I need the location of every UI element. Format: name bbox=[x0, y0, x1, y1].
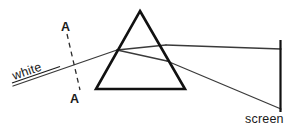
wavefront-label-top: A bbox=[61, 20, 70, 34]
wavefront-label-bottom: A bbox=[70, 92, 79, 106]
optics-figure: white A A screen bbox=[0, 0, 296, 127]
screen-label: screen bbox=[245, 112, 284, 126]
prism-dispersion-diagram: white A A screen bbox=[0, 0, 296, 127]
figure-background bbox=[0, 0, 296, 127]
